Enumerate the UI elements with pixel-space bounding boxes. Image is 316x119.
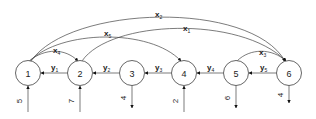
svg-text:4: 4: [181, 69, 186, 79]
x-edges: [29, 17, 286, 61]
edge-x1: [82, 28, 286, 61]
node-5: 5: [224, 61, 249, 86]
demand-arrows: [132, 85, 289, 108]
x-labels: x2 x1 x5 x4 x3: [53, 10, 266, 58]
node-2: 2: [68, 61, 93, 86]
label-x2: x2: [155, 10, 162, 20]
label-y3: y3: [155, 63, 162, 73]
node-6: 6: [277, 61, 302, 86]
demand-value-3: 4: [119, 95, 128, 100]
svg-text:2: 2: [77, 69, 82, 79]
svg-text:3: 3: [129, 69, 134, 79]
label-x4: x4: [53, 46, 60, 56]
node-1: 1: [16, 61, 41, 86]
label-y1: y1: [51, 63, 58, 73]
node-3: 3: [120, 61, 145, 86]
flow-values: 5 7 2 4 6 4: [15, 92, 285, 103]
demand-value-5: 6: [223, 95, 232, 100]
label-y5: y5: [260, 63, 267, 73]
label-y4: y4: [207, 63, 214, 73]
supply-value-2: 7: [67, 98, 76, 103]
svg-text:1: 1: [25, 69, 30, 79]
supply-value-1: 5: [15, 98, 24, 103]
svg-text:6: 6: [286, 69, 291, 79]
node-4: 4: [172, 61, 197, 86]
label-x1: x1: [183, 24, 190, 34]
supply-value-4: 2: [171, 98, 180, 103]
label-x5: x5: [104, 29, 111, 39]
supply-arrows: [28, 86, 184, 112]
network-diagram: 1 2 3 4 5 6 y1 y2 y3 y4 y5 x2 x1 x5 x4 x…: [0, 0, 316, 119]
demand-value-6: 4: [276, 92, 285, 97]
label-x3: x3: [259, 48, 266, 58]
svg-text:5: 5: [233, 69, 238, 79]
label-y2: y2: [103, 63, 110, 73]
